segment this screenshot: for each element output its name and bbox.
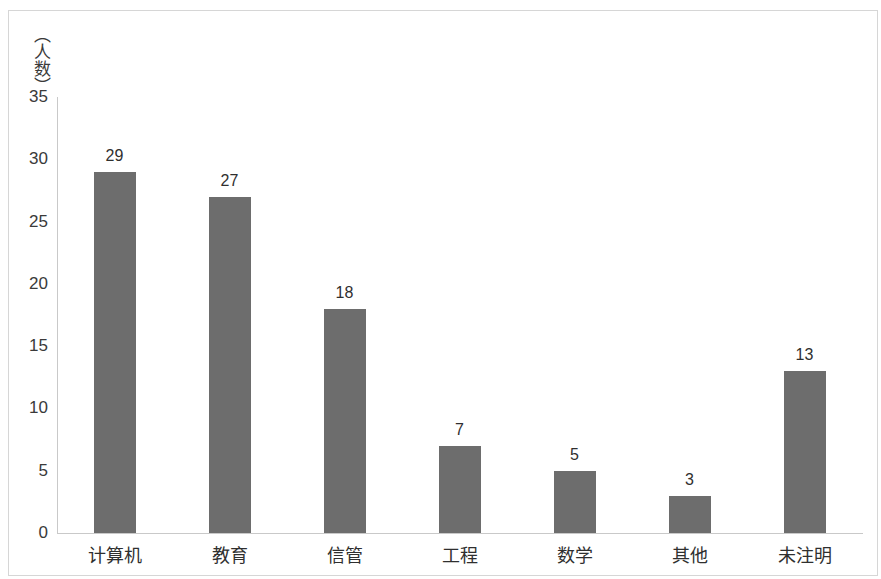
x-category-label: 工程 [442, 541, 478, 567]
bar-value-label: 3 [685, 471, 694, 489]
y-tick-label: 25 [8, 212, 48, 232]
y-axis-title: （人数） [24, 26, 50, 94]
bar-slot: 18 [287, 97, 402, 533]
bar-value-label: 18 [336, 284, 354, 302]
bar[interactable] [94, 172, 136, 533]
x-category-label: 未注明 [778, 541, 832, 567]
bar[interactable] [439, 446, 481, 533]
bar-slot: 5 [517, 97, 632, 533]
bar[interactable] [324, 309, 366, 533]
bar[interactable] [784, 371, 826, 533]
bar-slot: 27 [172, 97, 287, 533]
bar[interactable] [669, 496, 711, 533]
x-category-label: 数学 [557, 541, 593, 567]
bar-chart-figure: （人数） 05101520253035 29271875313 计算机教育信管工… [0, 0, 881, 579]
y-tick-label: 5 [8, 461, 48, 481]
bar-slot: 7 [402, 97, 517, 533]
bar-value-label: 13 [796, 346, 814, 364]
bar-slot: 13 [747, 97, 862, 533]
x-category-label: 信管 [327, 541, 363, 567]
y-axis-tick-labels: 05101520253035 [0, 97, 48, 533]
bar[interactable] [554, 471, 596, 533]
bar-value-label: 7 [455, 421, 464, 439]
x-category-label: 教育 [212, 541, 248, 567]
y-tick-label: 15 [8, 336, 48, 356]
x-category-label: 其他 [672, 541, 708, 567]
bar-value-label: 29 [106, 147, 124, 165]
x-category-label: 计算机 [88, 541, 142, 567]
x-axis-category-labels: 计算机教育信管工程数学其他未注明 [57, 541, 862, 575]
x-axis-line [57, 533, 863, 534]
y-tick-label: 35 [8, 87, 48, 107]
bars-layer: 29271875313 [57, 97, 862, 533]
bar-slot: 29 [57, 97, 172, 533]
bar-value-label: 5 [570, 446, 579, 464]
bar[interactable] [209, 197, 251, 533]
y-tick-label: 0 [8, 523, 48, 543]
y-tick-label: 30 [8, 149, 48, 169]
bar-value-label: 27 [221, 172, 239, 190]
y-tick-label: 20 [8, 274, 48, 294]
y-tick-label: 10 [8, 398, 48, 418]
bar-slot: 3 [632, 97, 747, 533]
